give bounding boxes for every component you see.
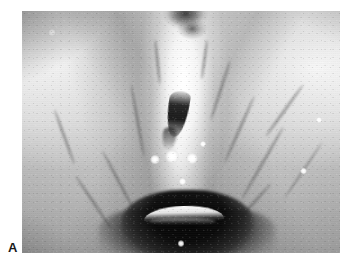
specular-highlight (200, 141, 206, 147)
specular-highlight (165, 150, 178, 163)
vessel-line (130, 84, 145, 156)
specular-highlight (300, 168, 306, 174)
vessel-line (224, 96, 256, 163)
specular-highlight (186, 153, 197, 164)
specular-highlight (179, 178, 187, 185)
vessel-line (265, 84, 304, 136)
figure-panel: A (0, 0, 348, 266)
vessel-line (210, 60, 233, 121)
vessel-line (201, 40, 209, 79)
vessel-line (153, 40, 160, 84)
specular-highlight (48, 29, 56, 36)
specular-highlight (316, 117, 322, 122)
vessel-line (240, 127, 283, 200)
specular-highlight (178, 240, 185, 247)
vessel-line (53, 109, 76, 165)
glottic-chink-tail (160, 126, 178, 152)
laryngoscopy-photograph (22, 11, 340, 253)
specular-highlight (150, 155, 160, 164)
vessel-line (102, 150, 136, 211)
panel-label: A (8, 241, 18, 255)
